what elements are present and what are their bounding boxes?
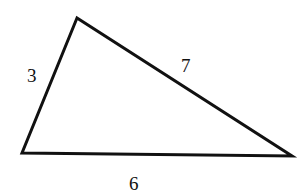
triangle-diagram: 3 7 6 — [0, 0, 305, 194]
side-label-hypotenuse: 7 — [181, 55, 191, 76]
triangle — [22, 18, 292, 156]
side-label-left: 3 — [27, 65, 37, 86]
side-label-base: 6 — [129, 173, 139, 194]
